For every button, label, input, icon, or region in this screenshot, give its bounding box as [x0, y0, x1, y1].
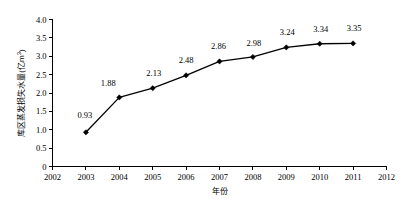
x-axis-tick-labels: 2002200320042005200620072008200920102011…: [44, 172, 395, 182]
data-point-label: 3.35: [347, 23, 362, 33]
x-tick-label: 2011: [345, 172, 362, 182]
data-point-marker: [217, 59, 222, 64]
x-axis-title: 年份: [212, 186, 228, 196]
data-point-marker: [351, 41, 356, 46]
x-tick-label: 2004: [111, 172, 129, 182]
x-tick-label: 2006: [178, 172, 195, 182]
y-tick-label: 0.5: [36, 143, 47, 153]
x-axis-tick-marks: [53, 167, 387, 171]
x-tick-label: 2009: [278, 172, 295, 182]
data-point-marker: [250, 54, 255, 59]
x-tick-label: 2003: [77, 172, 94, 182]
line-chart: 00.51.01.52.02.53.03.54.0 20022003200420…: [0, 0, 411, 211]
y-tick-label: 3.5: [36, 33, 47, 43]
x-tick-label: 2007: [211, 172, 228, 182]
y-tick-label: 4.0: [36, 15, 47, 25]
data-point-label: 2.13: [146, 68, 161, 78]
data-point-label: 3.34: [313, 24, 329, 34]
data-point-marker: [317, 41, 322, 46]
x-tick-label: 2010: [311, 172, 328, 182]
x-tick-label: 2008: [244, 172, 261, 182]
y-axis-title-text: 库区蒸发损失水量(亿m3): [16, 49, 26, 137]
data-point-markers: [83, 41, 355, 135]
data-point-marker: [284, 45, 289, 50]
y-tick-label: 3.0: [36, 51, 47, 61]
y-axis-title: 库区蒸发损失水量(亿m3): [16, 49, 26, 137]
data-point-label: 2.86: [211, 41, 226, 51]
data-point-marker: [150, 86, 155, 91]
y-axis-tick-marks: [49, 20, 53, 167]
data-point-value-labels: 0.931.882.132.482.862.983.243.343.35: [77, 23, 361, 120]
x-tick-label: 2012: [378, 172, 395, 182]
data-series-line: [86, 43, 353, 132]
x-tick-label: 2005: [144, 172, 161, 182]
y-tick-label: 1.0: [36, 125, 47, 135]
y-tick-label: 2.0: [36, 88, 47, 98]
x-tick-label: 2002: [44, 172, 61, 182]
y-tick-label: 2.5: [36, 70, 47, 80]
chart-container: 00.51.01.52.02.53.03.54.0 20022003200420…: [0, 0, 411, 211]
data-point-label: 1.88: [101, 78, 116, 88]
data-point-label: 2.48: [179, 55, 194, 65]
data-point-label: 3.24: [280, 27, 296, 37]
data-point-label: 2.98: [246, 38, 261, 48]
y-tick-label: 0: [42, 162, 46, 172]
data-point-marker: [184, 73, 189, 78]
y-axis-tick-labels: 00.51.01.52.02.53.03.54.0: [36, 15, 47, 172]
y-tick-label: 1.5: [36, 106, 47, 116]
data-point-label: 0.93: [77, 110, 92, 120]
